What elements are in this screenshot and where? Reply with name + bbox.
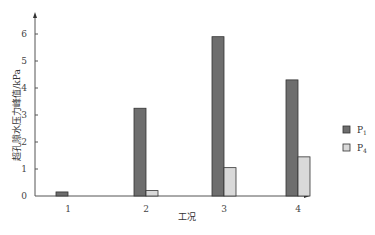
legend-label-1: P4: [357, 143, 367, 154]
bar-p1-2: [134, 108, 146, 196]
bar-chart: 0123456超孔隙水压力峰值/kPa工况 1234 P1P4: [0, 0, 375, 235]
x-axis-label: 工况: [178, 212, 196, 222]
x-tick-label: 2: [143, 204, 149, 214]
x-tick-label: 3: [221, 204, 227, 214]
legend-swatch-0: [343, 126, 350, 133]
bars: 1234: [56, 37, 310, 214]
y-tick-label: 6: [21, 29, 27, 39]
y-tick-label: 1: [21, 164, 27, 174]
legend-label-0: P1: [357, 125, 367, 136]
x-tick-label: 4: [295, 204, 301, 214]
x-tick-label: 1: [65, 204, 71, 214]
bar-p1-1: [56, 192, 68, 196]
bar-p4-3: [224, 168, 236, 196]
bar-p1-3: [212, 37, 224, 196]
y-axis-label: 超孔隙水压力峰值/kPa: [11, 69, 22, 161]
axes: 0123456超孔隙水压力峰值/kPa工况: [11, 12, 310, 222]
bar-p4-4: [298, 157, 310, 196]
y-tick-label: 4: [21, 83, 27, 93]
y-axis-arrow-icon: [33, 12, 37, 18]
bar-p4-2: [146, 191, 158, 196]
y-tick-label: 5: [21, 56, 27, 66]
y-tick-label: 2: [21, 137, 27, 147]
y-tick-label: 0: [21, 191, 27, 201]
y-tick-label: 3: [21, 110, 27, 120]
legend-swatch-1: [343, 144, 350, 151]
legend: P1P4: [343, 125, 367, 154]
bar-p1-4: [286, 80, 298, 196]
